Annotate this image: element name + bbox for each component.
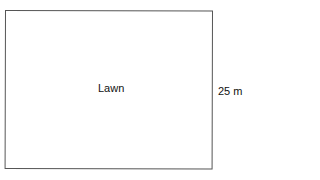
side-length-label: 25 m: [218, 85, 242, 97]
lawn-label: Lawn: [98, 82, 124, 94]
